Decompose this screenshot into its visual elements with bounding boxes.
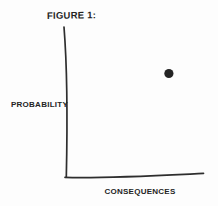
chart-canvas: FIGURE 1: PROBABILITY CONSEQUENCES	[0, 0, 218, 206]
y-axis-label: PROBABILITY	[11, 100, 68, 109]
chart-title: FIGURE 1:	[47, 9, 96, 21]
figure-1-chart: FIGURE 1: PROBABILITY CONSEQUENCES	[0, 0, 218, 206]
x-axis-label: CONSEQUENCES	[104, 187, 175, 196]
x-axis-line	[65, 173, 204, 177]
data-point	[164, 69, 173, 78]
